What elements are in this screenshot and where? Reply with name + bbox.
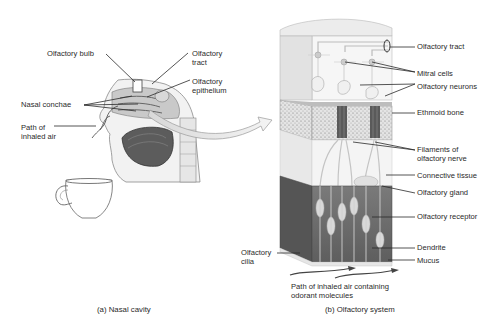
label-olfactory-epithelium: Olfactory epithelium — [192, 78, 227, 95]
label-path-inhaled-air: Path of inhaled air — [21, 124, 56, 141]
label-olfactory-tract-b: Olfactory tract — [417, 43, 464, 52]
label-olfactory-receptor: Olfactory receptor — [417, 213, 477, 222]
label-mucus: Mucus — [417, 257, 439, 266]
label-dendrite: Dendrite — [417, 244, 446, 253]
label-ethmoid-bone: Ethmoid bone — [417, 109, 464, 118]
label-path-air-odorant: Path of inhaled air containing odorant m… — [291, 283, 389, 300]
olfactory-system-illustration — [280, 19, 399, 278]
label-nasal-conchae: Nasal conchae — [21, 101, 71, 110]
label-connective-tissue: Connective tissue — [417, 172, 477, 181]
label-olfactory-neurons: Olfactory neurons — [417, 83, 477, 92]
coffee-cup-illustration — [56, 179, 113, 219]
label-olfactory-tract-a: Olfactory tract — [192, 50, 222, 67]
caption-olfactory-system: (b) Olfactory system — [325, 305, 395, 314]
caption-nasal-cavity: (a) Nasal cavity — [97, 305, 151, 314]
label-olfactory-gland: Olfactory gland — [417, 189, 468, 198]
label-filaments-olfactory-nerve: Filaments of olfactory nerve — [417, 146, 467, 163]
label-mitral-cells: Mitral cells — [417, 70, 453, 79]
label-olfactory-bulb: Olfactory bulb — [47, 50, 94, 59]
label-olfactory-cilia: Olfactory cilia — [241, 249, 271, 266]
